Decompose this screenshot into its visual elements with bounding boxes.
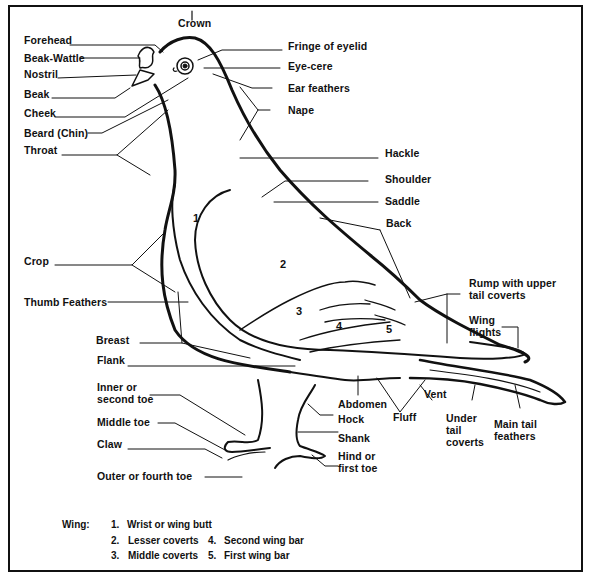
label-nostril: Nostril — [24, 68, 58, 80]
label-thumb-feathers: Thumb Feathers — [24, 296, 107, 308]
label-vent: Vent — [424, 388, 447, 400]
label-nape: Nape — [288, 104, 314, 116]
label-crop: Crop — [24, 255, 49, 267]
label-throat: Throat — [24, 144, 57, 156]
label-ear-feathers: Ear feathers — [288, 82, 350, 94]
legend-item-4-num: 4. — [208, 533, 216, 548]
legend-item-1-num: 1. — [111, 517, 119, 532]
label-claw: Claw — [97, 438, 122, 450]
label-beak-wattle: Beak-Wattle — [24, 52, 85, 64]
label-outer-toe: Outer or fourth toe — [97, 470, 192, 482]
wing-number-3: 3 — [296, 305, 302, 317]
legend-item-1: Wrist or wing butt — [127, 517, 212, 532]
label-middle-toe: Middle toe — [97, 416, 150, 428]
legend-item-4: Second wing bar — [224, 533, 304, 548]
wing-number-5: 5 — [386, 323, 392, 335]
label-shank: Shank — [338, 432, 370, 444]
wing-number-4: 4 — [336, 320, 342, 332]
label-crown: Crown — [178, 17, 211, 29]
wing-number-2: 2 — [280, 258, 286, 270]
legend-item-5: First wing bar — [224, 548, 290, 563]
legend-title: Wing: — [62, 517, 90, 532]
label-breast: Breast — [96, 334, 129, 346]
legend-item-5-num: 5. — [208, 548, 216, 563]
label-hackle: Hackle — [385, 147, 419, 159]
label-saddle: Saddle — [385, 195, 420, 207]
wing-number-1: 1 — [193, 212, 199, 224]
label-eye-cere: Eye-cere — [288, 60, 333, 72]
label-shoulder: Shoulder — [385, 173, 431, 185]
label-beard: Beard (Chin) — [24, 127, 88, 139]
label-forehead: Forehead — [24, 34, 72, 46]
legend-item-3-num: 3. — [111, 548, 119, 563]
label-cheek: Cheek — [24, 107, 56, 119]
label-rump: Rump with upper tail coverts — [469, 277, 556, 301]
legend-item-2: Lesser coverts — [128, 533, 199, 548]
label-fringe-of-eyelid: Fringe of eyelid — [288, 40, 367, 52]
label-main-tail-feathers: Main tail feathers — [494, 418, 537, 442]
label-back: Back — [386, 217, 412, 229]
label-fluff: Fluff — [393, 411, 416, 423]
label-abdomen: Abdomen — [338, 398, 387, 410]
label-hock: Hock — [338, 413, 364, 425]
label-under-tail-coverts: Under tail coverts — [446, 412, 484, 448]
label-inner-toe: Inner or second toe — [97, 381, 153, 405]
label-hind-toe: Hind or first toe — [338, 450, 377, 474]
legend-item-3: Middle coverts — [128, 548, 198, 563]
legend-item-2-num: 2. — [111, 533, 119, 548]
label-flank: Flank — [97, 354, 125, 366]
label-beak: Beak — [24, 88, 50, 100]
label-wing-flights: Wing flights — [469, 314, 501, 338]
